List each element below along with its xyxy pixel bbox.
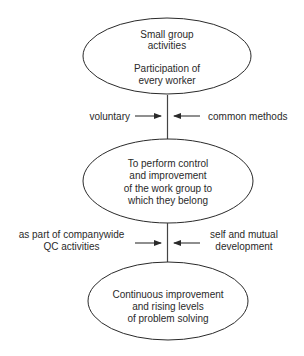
- qc-circle-diagram: Small group activities Participation of …: [0, 0, 304, 356]
- node-text-line: activities: [148, 40, 186, 51]
- node-text-line: and rising levels: [132, 301, 204, 312]
- connector-left-label: voluntary: [89, 111, 130, 122]
- connector-left-label: QC activities: [43, 241, 99, 252]
- node-text-line: To perform control: [128, 158, 209, 169]
- node-text-line: of the work group to: [124, 183, 213, 194]
- node-control-improvement: To perform control and improvement of th…: [83, 139, 253, 223]
- node-continuous-improvement: Continuous improvement and rising levels…: [88, 262, 248, 340]
- connector-right-label: common methods: [208, 111, 287, 122]
- connector-right-label: self and mutual: [210, 229, 278, 240]
- node-text-line: of problem solving: [127, 313, 208, 324]
- node-text-line: every worker: [138, 75, 196, 86]
- connector-right-label: development: [215, 241, 272, 252]
- connector-2: as part of companywide QC activities sel…: [19, 223, 278, 262]
- connector-left-label: as part of companywide: [19, 229, 125, 240]
- connector-1: voluntary common methods: [89, 95, 287, 139]
- node-ellipse: [83, 139, 253, 223]
- node-small-group: Small group activities Participation of …: [83, 18, 251, 94]
- node-text-line: Participation of: [134, 63, 200, 74]
- node-text-line: Continuous improvement: [112, 289, 223, 300]
- node-text-line: Small group: [140, 29, 194, 40]
- node-text-line: and improvement: [129, 170, 206, 181]
- node-text-line: which they belong: [127, 195, 208, 206]
